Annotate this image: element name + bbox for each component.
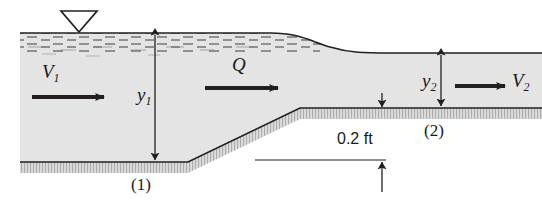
velocity-upstream-label: V1: [42, 62, 60, 81]
open-channel-flow-diagram: V1 Q y1 y2 V2 (1) (2) 0.2 ft: [0, 0, 542, 212]
discharge-label: Q: [232, 55, 246, 74]
velocity-downstream-label: V2: [512, 71, 530, 90]
section-two-label: (2): [424, 122, 444, 139]
diagram-canvas: [0, 0, 542, 212]
free-surface-triangle-icon: [61, 11, 97, 32]
depth-downstream-label: y2: [422, 71, 436, 90]
section-one-label: (1): [131, 176, 151, 193]
depth-upstream-label: y1: [137, 85, 151, 104]
step-height-label: 0.2 ft: [337, 131, 373, 147]
